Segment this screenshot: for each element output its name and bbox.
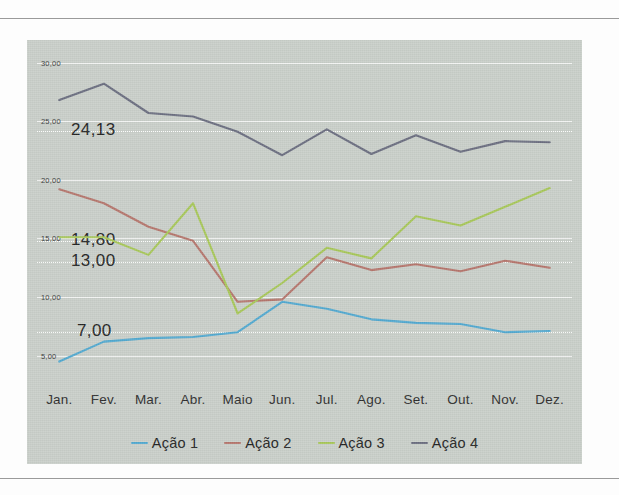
x-axis-tick-label: Out. <box>438 392 483 416</box>
x-axis-tick-label: Abr. <box>171 392 216 416</box>
x-axis-tick-label: Jul. <box>304 392 349 416</box>
legend-item-2[interactable]: Ação 2 <box>224 435 291 451</box>
x-axis-tick-label: Maio <box>215 392 260 416</box>
x-axis-tick-label: Set. <box>394 392 439 416</box>
series-line-ação-2 <box>59 189 549 302</box>
page-divider-bottom <box>0 478 619 479</box>
legend-label: Ação 4 <box>432 435 478 451</box>
series-lines <box>37 45 572 385</box>
x-axis-tick-label: Jan. <box>37 392 82 416</box>
page-canvas: 30,0025,0020,0015,0010,005,00 24,1314,80… <box>0 0 619 495</box>
page-divider-top <box>0 18 619 19</box>
x-axis-tick-label: Dez. <box>527 392 572 416</box>
line-chart: 30,0025,0020,0015,0010,005,00 24,1314,80… <box>27 40 582 464</box>
legend-color-swatch <box>131 442 148 444</box>
legend-label: Ação 2 <box>245 435 291 451</box>
legend-item-3[interactable]: Ação 3 <box>318 435 385 451</box>
chart-legend: Ação 1Ação 2Ação 3Ação 4 <box>37 430 572 456</box>
x-axis-tick-label: Mar. <box>126 392 171 416</box>
legend-label: Ação 1 <box>152 435 198 451</box>
series-line-ação-3 <box>59 188 549 313</box>
legend-item-1[interactable]: Ação 1 <box>131 435 198 451</box>
series-line-ação-1 <box>59 302 549 362</box>
x-axis-tick-label: Fev. <box>82 392 127 416</box>
legend-color-swatch <box>318 442 335 444</box>
legend-item-4[interactable]: Ação 4 <box>411 435 478 451</box>
legend-color-swatch <box>224 442 241 444</box>
x-axis-tick-label: Nov. <box>483 392 528 416</box>
x-axis-tick-label: Jun. <box>260 392 305 416</box>
x-axis-tick-labels: Jan.Fev.Mar.Abr.MaioJun.Jul.Ago.Set.Out.… <box>37 392 572 416</box>
x-axis-tick-label: Ago. <box>349 392 394 416</box>
plot-area: 30,0025,0020,0015,0010,005,00 24,1314,80… <box>37 45 572 385</box>
legend-color-swatch <box>411 442 428 444</box>
legend-label: Ação 3 <box>339 435 385 451</box>
series-line-ação-4 <box>59 84 549 156</box>
